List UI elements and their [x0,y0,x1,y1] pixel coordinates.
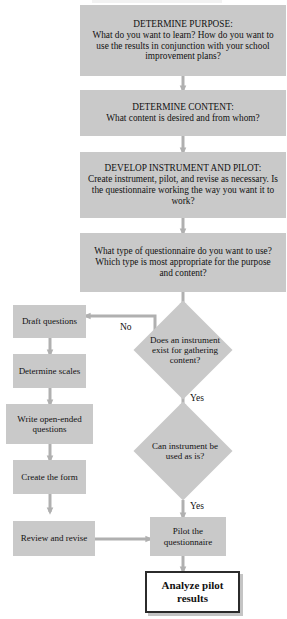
node-determine-content: DETERMINE CONTENT: What content is desir… [80,90,286,136]
node-determine-scales: Determine scales [13,354,86,388]
node-develop-instrument: DEVELOP INSTRUMENT AND PILOT: Create ins… [80,152,286,218]
questionnaire-type-text: What type of questionnaire do you want t… [88,246,278,278]
edge-label-yes-usable: Yes [190,394,204,404]
determine-purpose-body: What do you want to learn? How do you wa… [86,30,280,62]
node-analyze-results: Analyze pilot results [145,571,240,613]
node-determine-purpose: DETERMINE PURPOSE: What do you want to l… [80,5,286,76]
decision-instrument-exists: Does an instrument exist for gathering c… [148,315,218,385]
develop-instrument-body: Create instrument, pilot, and revise as … [86,174,280,206]
analyze-results-text: Analyze pilot results [151,579,234,605]
node-draft-questions: Draft questions [13,305,86,338]
decision-instrument-usable-text: Can instrument be used as is? [150,441,220,462]
determine-content-heading: DETERMINE CONTENT: [106,102,259,113]
pilot-questionnaire-text: Pilot the questionnaire [154,526,222,547]
determine-purpose-heading: DETERMINE PURPOSE: [86,19,280,30]
node-questionnaire-type: What type of questionnaire do you want t… [80,233,286,292]
draft-questions-text: Draft questions [22,316,77,326]
decision-instrument-exists-text: Does an instrument exist for gathering c… [150,335,220,366]
decision-instrument-usable: Can instrument be used as is? [148,416,218,486]
create-form-text: Create the form [21,472,77,482]
edge-label-no: No [120,323,132,333]
top-crop-artifact [92,0,222,3]
edge-label-yes-pilot: Yes [190,502,204,512]
node-pilot-questionnaire: Pilot the questionnaire [150,517,226,556]
node-create-form: Create the form [13,460,86,494]
determine-scales-text: Determine scales [19,366,81,376]
flowchart-canvas: DETERMINE PURPOSE: What do you want to l… [0,0,287,619]
node-write-open-ended: Write open-ended questions [6,404,93,444]
review-revise-text: Review and revise [21,533,87,543]
write-open-ended-text: Write open-ended questions [10,414,89,435]
determine-content-body: What content is desired and from whom? [106,113,259,124]
develop-instrument-heading: DEVELOP INSTRUMENT AND PILOT: [86,163,280,174]
node-review-revise: Review and revise [13,521,95,556]
